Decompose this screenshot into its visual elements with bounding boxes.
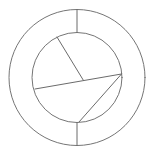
figure-canvas: [0, 0, 154, 155]
inner-circle: [32, 33, 122, 123]
geometric-figure-svg: [0, 0, 154, 155]
horizontal-chord: [35, 74, 122, 89]
lower-right-chord: [79, 74, 122, 122]
upper-left-chord: [57, 37, 84, 81]
